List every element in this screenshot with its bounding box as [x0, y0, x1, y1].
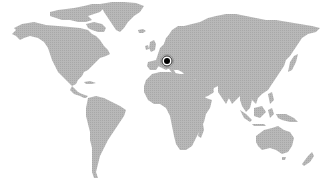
island-philippines — [268, 92, 274, 104]
island-tasmania — [282, 157, 286, 160]
continent-north-america — [12, 22, 110, 98]
island-java — [252, 124, 266, 126]
island-sulawesi — [268, 108, 274, 118]
island-new-guinea — [276, 114, 298, 122]
island-ireland — [145, 45, 149, 50]
world-map-canvas — [0, 0, 327, 194]
caribbean-islands — [84, 81, 96, 84]
island-uk — [149, 40, 156, 52]
location-marker[interactable]: Central Europe — [160, 54, 174, 68]
baffin-island — [86, 22, 106, 32]
world-map[interactable]: Central Europe — [0, 0, 327, 194]
continent-australia — [256, 126, 294, 154]
island-new-zealand — [302, 152, 314, 166]
island-iceland — [138, 29, 146, 33]
continent-south-america — [86, 96, 126, 178]
continent-greenland — [100, 2, 144, 32]
island-borneo — [254, 106, 266, 118]
island-japan — [288, 54, 298, 72]
canadian-arctic-islands — [50, 4, 104, 22]
location-pin-icon — [160, 54, 174, 68]
